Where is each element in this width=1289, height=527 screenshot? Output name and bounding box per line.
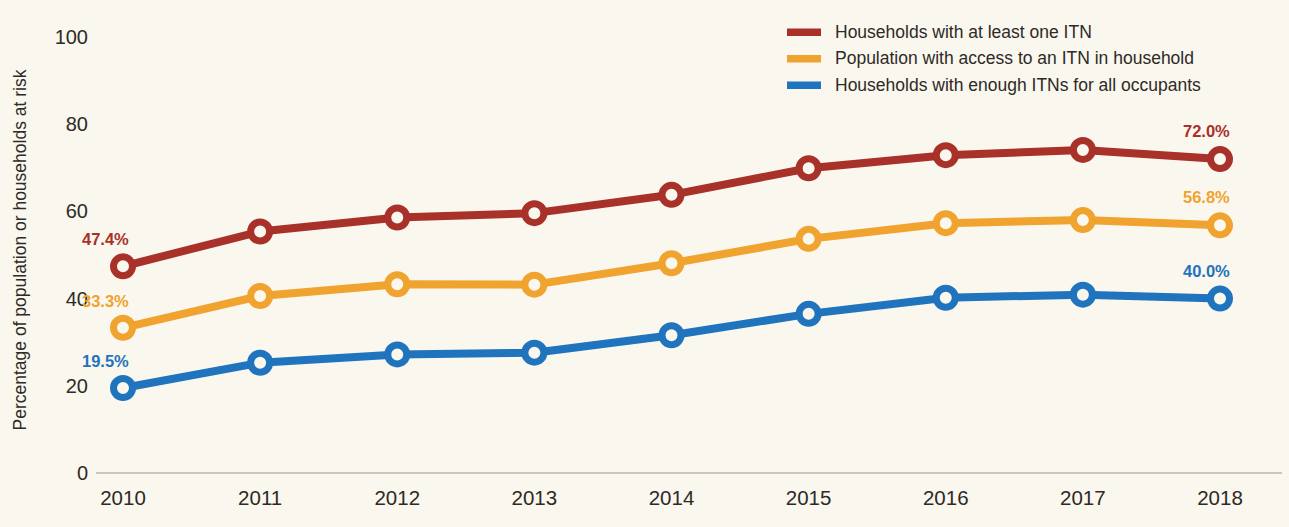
y-axis-title: Percentage of population or households a…: [10, 69, 30, 430]
y-axis-tick-label: 100: [55, 26, 88, 48]
x-axis-tick-label: 2014: [649, 486, 695, 509]
data-point-marker[interactable]: [388, 345, 407, 364]
data-point-marker[interactable]: [114, 257, 133, 276]
x-axis-tick-label: 2017: [1060, 486, 1106, 509]
x-axis-tick-label: 2010: [100, 486, 146, 509]
end-value-label: 72.0%: [1183, 122, 1230, 140]
start-value-label: 47.4%: [82, 230, 129, 248]
x-axis-tick-label: 2018: [1197, 486, 1243, 509]
data-point-marker[interactable]: [525, 343, 544, 362]
legend-item[interactable]: Households with enough ITNs for all occu…: [787, 75, 1201, 95]
data-point-marker[interactable]: [1073, 140, 1092, 159]
legend-swatch: [787, 29, 821, 37]
data-point-marker[interactable]: [1211, 289, 1230, 308]
data-point-marker[interactable]: [251, 353, 270, 372]
data-point-marker[interactable]: [251, 286, 270, 305]
line-chart: Percentage of population or households a…: [0, 0, 1289, 527]
x-axis-ticks: 201020112012201320142015201620172018: [100, 486, 1243, 509]
legend-label: Households with at least one ITN: [835, 22, 1092, 42]
data-point-marker[interactable]: [799, 304, 818, 323]
data-point-marker[interactable]: [114, 378, 133, 397]
legend-swatch: [787, 55, 821, 63]
data-point-marker[interactable]: [525, 275, 544, 294]
data-point-marker[interactable]: [1073, 285, 1092, 304]
end-value-label: 56.8%: [1183, 188, 1230, 206]
start-value-label: 19.5%: [82, 352, 129, 370]
data-point-marker[interactable]: [388, 208, 407, 227]
x-axis-tick-label: 2012: [374, 486, 420, 509]
y-axis-tick-label: 80: [66, 113, 88, 135]
data-point-marker[interactable]: [1211, 216, 1230, 235]
data-point-marker[interactable]: [662, 185, 681, 204]
legend-label: Households with enough ITNs for all occu…: [835, 75, 1201, 95]
y-axis-tick-label: 20: [66, 375, 88, 397]
x-axis-tick-label: 2016: [923, 486, 969, 509]
y-axis-title-text: Percentage of population or households a…: [10, 69, 30, 430]
data-point-marker[interactable]: [662, 254, 681, 273]
data-point-marker[interactable]: [1211, 150, 1230, 169]
data-point-marker[interactable]: [936, 214, 955, 233]
y-axis-tick-label: 0: [77, 462, 88, 484]
end-value-label: 40.0%: [1183, 262, 1230, 280]
x-axis-tick-label: 2015: [786, 486, 832, 509]
chart-container: Percentage of population or households a…: [0, 0, 1289, 527]
legend-label: Population with access to an ITN in hous…: [835, 48, 1194, 68]
data-point-marker[interactable]: [525, 204, 544, 223]
data-point-marker[interactable]: [662, 326, 681, 345]
data-point-marker[interactable]: [388, 275, 407, 294]
data-point-marker[interactable]: [799, 229, 818, 248]
data-point-marker[interactable]: [251, 222, 270, 241]
x-axis-tick-label: 2013: [512, 486, 558, 509]
legend-swatch: [787, 82, 821, 90]
data-point-marker[interactable]: [936, 146, 955, 165]
data-point-marker[interactable]: [799, 159, 818, 178]
data-point-marker[interactable]: [114, 318, 133, 337]
data-point-marker[interactable]: [1073, 211, 1092, 230]
data-point-marker[interactable]: [936, 288, 955, 307]
x-axis-tick-label: 2011: [238, 486, 282, 509]
y-axis-tick-label: 60: [66, 200, 88, 222]
start-value-label: 33.3%: [82, 292, 129, 310]
legend-item[interactable]: Population with access to an ITN in hous…: [787, 48, 1194, 68]
